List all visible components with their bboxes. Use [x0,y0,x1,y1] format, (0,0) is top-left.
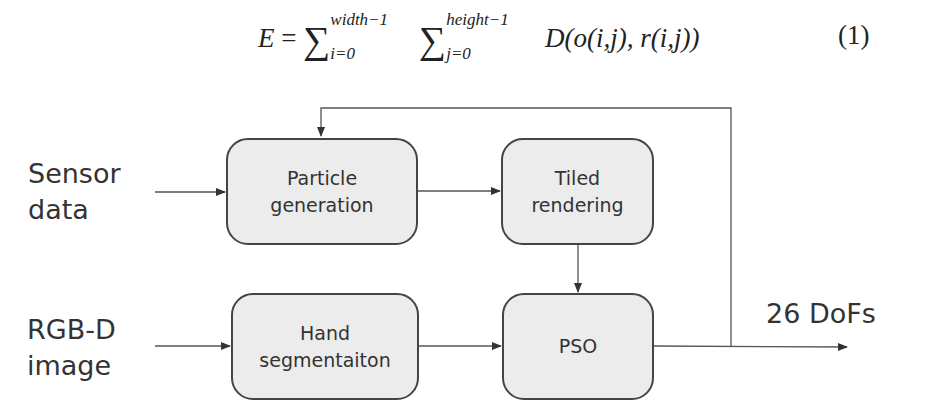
rgbd-label-line1: RGB-D [27,312,116,348]
particle-generation-box: Particle generation [226,138,418,245]
hand-segmentation-box: Hand segmentaiton [231,293,419,400]
tiled-label-line2: rendering [531,192,623,219]
output-label: 26 DoFs [766,296,876,332]
pso-box: PSO [502,293,654,400]
sensor-label-line2: data [28,192,121,228]
particle-label-line1: Particle [270,165,373,192]
hand-label-line1: Hand [259,320,390,347]
connector-lines [0,0,929,418]
sensor-label-line1: Sensor [28,156,121,192]
input-rgbd-image: RGB-D image [27,312,116,384]
particle-label-line2: generation [270,192,373,219]
pso-label: PSO [559,333,597,360]
tiled-rendering-box: Tiled rendering [501,138,654,245]
hand-label-line2: segmentaiton [259,347,390,374]
rgbd-label-line2: image [27,348,116,384]
tiled-label-line1: Tiled [531,165,623,192]
input-sensor-data: Sensor data [28,156,121,228]
